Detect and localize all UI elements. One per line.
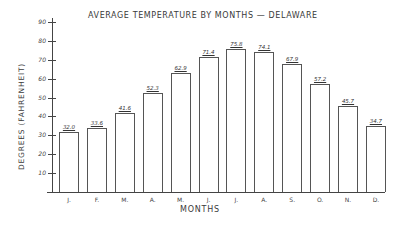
bar xyxy=(282,64,302,192)
y-tick xyxy=(48,116,56,117)
bar xyxy=(366,126,386,192)
y-tick xyxy=(48,98,56,99)
bar-value-label: 74.1 xyxy=(250,44,278,50)
bar-value-label: 67.9 xyxy=(278,56,306,62)
y-tick xyxy=(48,173,56,174)
y-tick-label: 60 xyxy=(30,75,46,82)
y-tick xyxy=(48,41,56,42)
x-tick-label: F. xyxy=(87,196,107,203)
bar-value-label: 75.8 xyxy=(222,41,250,47)
bar xyxy=(143,93,163,192)
bar-value-label: 62.9 xyxy=(167,65,195,71)
y-tick xyxy=(48,79,56,80)
x-tick-label: J. xyxy=(59,196,79,203)
y-axis-line xyxy=(52,18,53,193)
y-axis-label: DEGREES (FAHRENHEIT) xyxy=(17,62,26,172)
bar-value-label: 33.6 xyxy=(83,120,111,126)
x-tick-label: A. xyxy=(143,196,163,203)
bar-value-label: 57.2 xyxy=(306,76,334,82)
bar xyxy=(171,73,191,192)
y-tick xyxy=(48,60,56,61)
x-tick-label: J. xyxy=(226,196,246,203)
x-tick-label: A. xyxy=(254,196,274,203)
x-tick-label: D. xyxy=(366,196,386,203)
bar xyxy=(199,57,219,192)
y-tick-label: 50 xyxy=(30,94,46,101)
bar xyxy=(310,84,330,192)
bar-value-label: 34.7 xyxy=(362,118,390,124)
y-tick-label: 10 xyxy=(30,169,46,176)
bar-chart: AVERAGE TEMPERATURE BY MONTHS — DELAWARE… xyxy=(0,0,404,225)
bar xyxy=(59,132,79,192)
y-tick-label: 90 xyxy=(30,18,46,25)
y-tick xyxy=(48,135,56,136)
x-axis-line xyxy=(47,192,385,193)
y-tick-label: 20 xyxy=(30,150,46,157)
y-tick-label: 40 xyxy=(30,112,46,119)
x-tick-label: M. xyxy=(171,196,191,203)
bar-value-label: 45.7 xyxy=(334,98,362,104)
bar xyxy=(254,52,274,192)
bar xyxy=(226,49,246,192)
x-tick-label: M. xyxy=(115,196,135,203)
bar-value-label: 52.3 xyxy=(139,85,167,91)
bar xyxy=(338,106,358,192)
y-tick-label: 70 xyxy=(30,56,46,63)
bar xyxy=(87,128,107,192)
y-tick-label: 80 xyxy=(30,37,46,44)
x-tick-label: S. xyxy=(282,196,302,203)
x-tick-label: O. xyxy=(310,196,330,203)
y-tick-label: 30 xyxy=(30,131,46,138)
x-axis-label: MONTHS xyxy=(180,205,220,214)
bar-value-label: 32.0 xyxy=(55,124,83,130)
x-tick-label: N. xyxy=(338,196,358,203)
y-tick xyxy=(48,22,56,23)
bar-value-label: 41.6 xyxy=(111,105,139,111)
bar-value-label: 71.4 xyxy=(195,49,223,55)
bar xyxy=(115,113,135,192)
chart-title: AVERAGE TEMPERATURE BY MONTHS — DELAWARE xyxy=(88,11,318,20)
y-tick xyxy=(48,154,56,155)
x-tick-label: J. xyxy=(199,196,219,203)
